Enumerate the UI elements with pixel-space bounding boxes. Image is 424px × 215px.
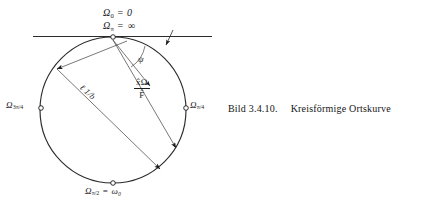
omega-pi-relation: = (116, 20, 124, 31)
omega-pi-value: ∞ (127, 20, 136, 31)
figure-kreisfoermige-ortskurve: Ω0 = 0 Ωπ = ∞ Ω3π/4 Ωπ/4 Ωπ/2 = ω₀ ℓ 1/b… (0, 0, 424, 215)
label-angle-psi: ψ (138, 55, 144, 64)
omega-3pi4-symbol: Ω (6, 100, 13, 110)
omega-pi2-point (111, 181, 116, 186)
label-omega-pi2: Ωπ/2 = ω₀ (85, 187, 121, 197)
fraction-numerator: x̂Ω (134, 78, 150, 88)
omega-zero-relation: = (116, 7, 124, 18)
omega-pi-subscript: π (110, 25, 113, 32)
omega-zero-value: 0 (127, 7, 132, 18)
omega-pi4-symbol: Ω (190, 100, 197, 110)
omega-pi4-subscript: π/4 (197, 104, 205, 110)
fraction-bar (134, 88, 150, 89)
fraction-denominator: F̂ (134, 90, 150, 100)
omega-3pi4-subscript: 3π/4 (13, 104, 24, 110)
caption-text: Kreisförmige Ortskurve (291, 103, 391, 114)
label-vector-fraction: x̂Ω F̂ (134, 78, 150, 100)
omega-pi2-relation: = (102, 186, 109, 196)
label-omega-3pi4: Ω3π/4 (6, 101, 23, 111)
figure-caption: Bild 3.4.10.Kreisförmige Ortskurve (228, 104, 391, 114)
omega-pi2-symbol: Ω (85, 186, 92, 196)
omega-pi2-subscript: π/2 (92, 190, 100, 196)
omega-pi4-point (184, 106, 189, 111)
label-omega-zero: Ω0 = 0 (103, 8, 132, 19)
locus-circle (40, 37, 186, 183)
omega-pi-point (111, 35, 116, 40)
caption-number: Bild 3.4.10. (228, 103, 278, 114)
omega-pi2-value: ω₀ (112, 186, 122, 196)
label-omega-pi4: Ωπ/4 (190, 101, 204, 111)
label-omega-pi: Ωπ = ∞ (103, 21, 136, 32)
omega-zero-subscript: 0 (110, 12, 113, 19)
radius-vector-left (57, 41, 127, 69)
tangent-arrow (166, 30, 173, 45)
omega-3pi4-point (39, 106, 44, 111)
